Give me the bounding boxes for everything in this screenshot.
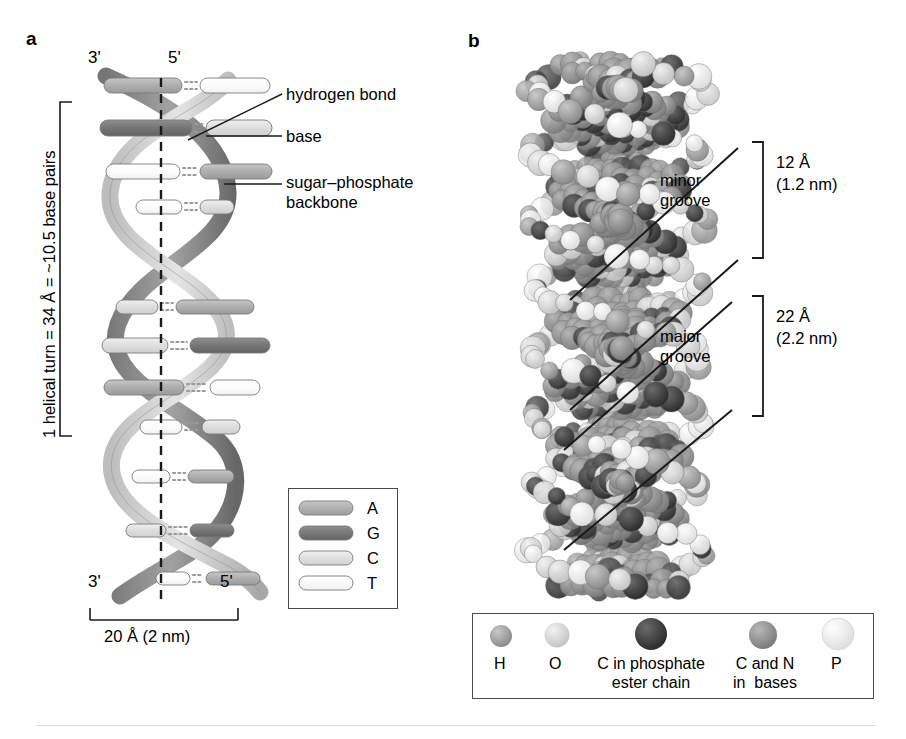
atom-legend-label-p: P [831,654,842,673]
atom-legend-label-o: O [549,654,561,673]
major-groove-label: major groove [660,326,710,366]
callout-hydrogen-bond-label: hydrogen bond [286,84,396,104]
base-legend-label-c: C [367,548,379,568]
callout-sugar-phosphate-backbone-label: sugar–phosphate backbone [286,172,414,212]
atom-legend-label-c-n-bases: C and N in bases [719,654,811,692]
helical-turn-measure-group: 1 helical turn = 34 Å = ~10.5 base pairs [22,0,52,560]
atom-color-legend: H O C in phosphate ester chain C and N i… [472,613,874,699]
minor-groove-label: minor groove [660,170,710,210]
width-measure-bracket [86,606,246,624]
callout-base-label: base [286,126,322,146]
minor-groove-bracket [750,140,768,262]
atom-legend-label-h: H [494,654,506,673]
base-legend-label-g: G [367,523,380,543]
label-3prime-top: 3' [88,48,101,68]
helical-turn-bracket [56,100,76,440]
base-legend-label-t: T [367,573,377,593]
major-groove-bracket [750,294,768,420]
minor-groove-measure-nm: (1.2 nm) [776,174,837,194]
panel-b-letter: b [468,30,480,52]
major-groove-measure-angstrom: 22 Å [776,306,810,326]
label-5prime-top: 5' [168,48,181,68]
label-5prime-bottom: 5' [220,572,233,592]
atom-legend-label-c-phosphate: C in phosphate ester chain [589,654,713,692]
helix-axis-dashed-line [158,78,164,600]
minor-groove-measure-angstrom: 12 Å [776,152,810,172]
base-legend-label-a: A [367,498,378,518]
base-color-legend: A G C T [288,488,398,609]
label-3prime-bottom: 3' [88,572,101,592]
major-groove-measure-nm: (2.2 nm) [776,328,837,348]
base-legend-swatches [299,501,357,597]
figure-separator-line [36,725,876,726]
width-measure-label: 20 Å (2 nm) [104,626,190,646]
